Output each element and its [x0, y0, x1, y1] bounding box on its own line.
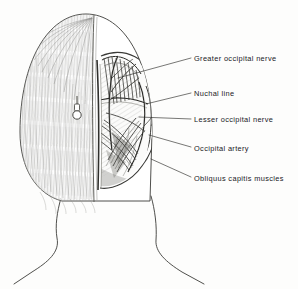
- leader-obliquus-capitis-muscles: [151, 159, 191, 177]
- anatomical-illustration: [0, 0, 298, 289]
- label-lesser-occipital-nerve: Lesser occipital nerve: [194, 116, 273, 123]
- haired-scalp-left: [10, 5, 96, 210]
- label-occipital-artery: Occipital artery: [194, 145, 249, 152]
- label-obliquus-capitis-muscles: Obliquus capitis muscles: [194, 175, 284, 182]
- suboccipital-dissection: [96, 52, 166, 192]
- leader-occipital-artery: [149, 135, 191, 147]
- label-nuchal-line: Nuchal line: [194, 90, 234, 97]
- label-greater-occipital-nerve: Greater occipital nerve: [194, 55, 276, 62]
- neck-and-shoulders: [14, 196, 204, 284]
- leader-nuchal-line: [146, 93, 191, 104]
